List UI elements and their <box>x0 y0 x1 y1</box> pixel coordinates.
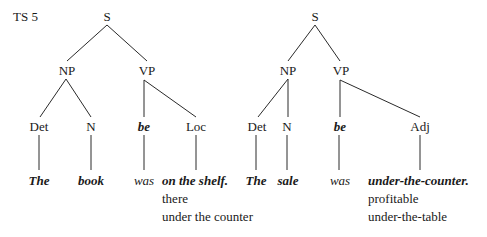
word-pred-left: on the shelf. <box>162 173 228 188</box>
word-was-right: was <box>330 173 350 188</box>
node-vp-right: VP <box>333 63 350 78</box>
word-pred-right: under-the-counter. <box>368 173 469 188</box>
node-det-left: Det <box>30 119 49 134</box>
tree-set-label: TS 5 <box>13 9 38 24</box>
branch-vp-adj-right <box>340 80 420 117</box>
alternative-right-2: under-the-table <box>368 209 447 224</box>
branch-s-vp-left <box>107 25 147 61</box>
node-adj-right: Adj <box>410 119 430 134</box>
node-det-right: Det <box>248 119 267 134</box>
node-s-right: S <box>311 9 318 24</box>
node-vp-left: VP <box>139 63 156 78</box>
node-np-left: NP <box>59 63 76 78</box>
node-s-left: S <box>103 9 110 24</box>
branch-np-det-left <box>40 79 66 117</box>
alternative-left-1: there <box>162 191 188 206</box>
node-n-right: N <box>282 119 291 134</box>
node-loc-left: Loc <box>186 119 206 134</box>
word-sale-right: sale <box>278 173 299 188</box>
node-be-right: be <box>334 119 346 134</box>
branch-s-np-right <box>288 25 315 61</box>
branch-s-np-left <box>67 25 107 61</box>
word-the-right: The <box>246 173 267 188</box>
node-be-left: be <box>138 119 150 134</box>
word-was-left: was <box>134 173 154 188</box>
word-book-left: book <box>78 173 104 188</box>
branch-s-vp-right <box>315 25 340 61</box>
word-the-left: The <box>29 173 50 188</box>
branch-np-n-left <box>66 79 91 117</box>
branch-np-det-right <box>258 79 288 117</box>
branch-vp-loc-left <box>144 80 196 117</box>
alternative-right-1: profitable <box>368 191 419 206</box>
node-n-left: N <box>86 119 95 134</box>
alternative-left-2: under the counter <box>162 209 253 224</box>
node-np-right: NP <box>280 63 297 78</box>
